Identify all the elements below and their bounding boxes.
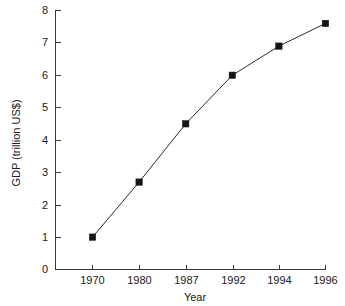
data-point-marker xyxy=(229,72,235,78)
y-tick-label: 6 xyxy=(42,69,48,81)
y-tick-label: 4 xyxy=(42,134,48,146)
data-point-marker xyxy=(276,43,282,49)
x-tick-label: 1992 xyxy=(221,274,245,286)
y-tick-label: 3 xyxy=(42,166,48,178)
y-tick-label: 0 xyxy=(42,263,48,275)
y-tick-label: 5 xyxy=(42,101,48,113)
y-tick-labels: 8 7 6 5 4 3 2 1 0 xyxy=(42,4,48,275)
y-tick-label: 7 xyxy=(42,36,48,48)
x-axis-title: Year xyxy=(184,291,207,303)
y-tick-label: 2 xyxy=(42,199,48,211)
x-tick-label: 1970 xyxy=(80,274,104,286)
data-point-marker xyxy=(136,179,142,185)
data-point-marker xyxy=(183,121,189,127)
y-tick-label: 1 xyxy=(42,231,48,243)
y-axis-title: GDP (trillion US$) xyxy=(10,99,22,186)
data-point-marker xyxy=(322,20,328,26)
data-point-marker xyxy=(89,234,95,240)
x-tick-label: 1994 xyxy=(267,274,291,286)
chart-figure: 8 7 6 5 4 3 2 1 0 1970 1980 1987 1992 19… xyxy=(0,0,345,306)
x-tick-label: 1980 xyxy=(127,274,151,286)
gdp-line-chart: 8 7 6 5 4 3 2 1 0 1970 1980 1987 1992 19… xyxy=(0,0,345,306)
x-tick-label: 1987 xyxy=(174,274,198,286)
x-tick-label: 1996 xyxy=(313,274,337,286)
y-tick-label: 8 xyxy=(42,4,48,16)
chart-background xyxy=(0,0,345,306)
